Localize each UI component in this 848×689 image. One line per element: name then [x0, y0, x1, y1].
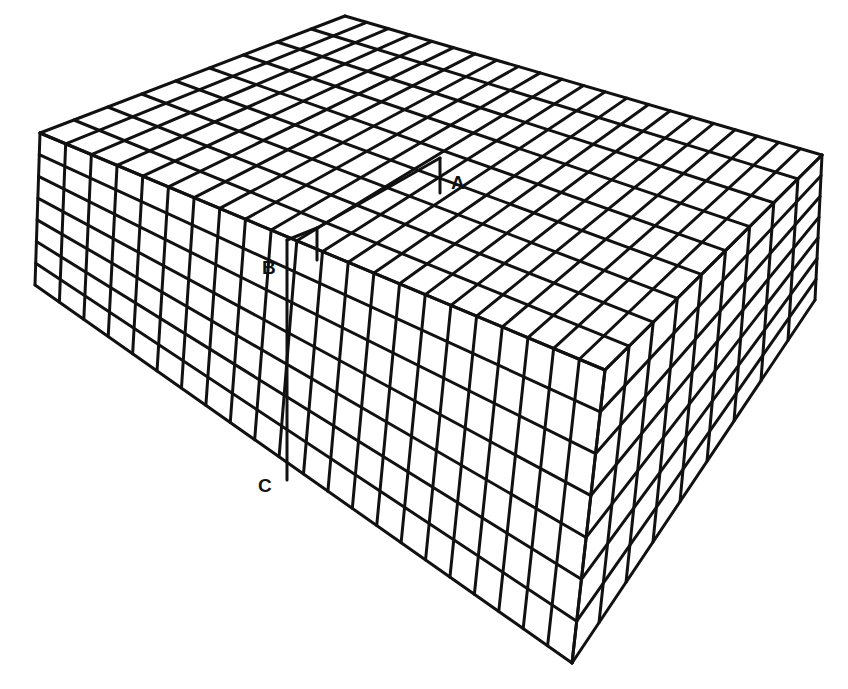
label-b: B [262, 257, 276, 279]
lattice-diagram: A B C [0, 0, 848, 689]
lattice-block-drawing [0, 0, 848, 689]
label-c: C [258, 475, 272, 497]
label-a: A [451, 172, 465, 194]
